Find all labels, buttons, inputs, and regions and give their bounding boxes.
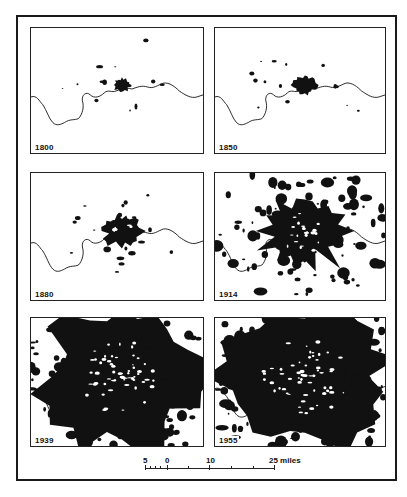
year-label: 1850 bbox=[218, 143, 239, 152]
settlement-patch bbox=[255, 206, 262, 212]
open-space bbox=[144, 363, 146, 365]
settlement-patch bbox=[240, 398, 245, 402]
open-space bbox=[111, 365, 115, 368]
open-space bbox=[288, 378, 292, 380]
scale-tick bbox=[253, 466, 254, 469]
map-panel-1955: 1955 bbox=[214, 317, 386, 447]
open-space bbox=[301, 374, 306, 376]
settlement-patch bbox=[307, 248, 311, 251]
settlement-patch bbox=[51, 411, 61, 416]
settlement-patch bbox=[117, 432, 123, 439]
scale-line bbox=[145, 468, 275, 469]
open-space bbox=[262, 370, 266, 373]
settlement-patch bbox=[168, 443, 175, 446]
settlement-patch bbox=[118, 238, 123, 244]
settlement-patch bbox=[337, 235, 344, 244]
open-space bbox=[329, 368, 334, 371]
settlement-patch bbox=[289, 268, 296, 271]
settlement-patch bbox=[352, 375, 366, 381]
scale-tick bbox=[167, 465, 168, 470]
settlement-patch bbox=[299, 253, 302, 255]
settlement-patch bbox=[277, 255, 290, 266]
settlement-patch bbox=[121, 204, 124, 208]
open-space bbox=[300, 246, 304, 247]
settlement-patch bbox=[249, 173, 255, 180]
settlement-patch bbox=[367, 428, 375, 433]
settlement-patch bbox=[247, 230, 258, 241]
settlement-patch bbox=[315, 239, 325, 243]
settlement-patch bbox=[327, 379, 333, 383]
urban-map bbox=[31, 318, 203, 446]
settlement-patch bbox=[292, 259, 301, 269]
settlement-patch bbox=[357, 415, 370, 422]
urban-core bbox=[114, 77, 131, 92]
open-space bbox=[133, 379, 136, 381]
settlement-patch bbox=[257, 106, 259, 108]
settlement-patch bbox=[365, 436, 373, 446]
settlement-patch bbox=[238, 426, 243, 432]
open-space bbox=[294, 241, 298, 242]
open-space bbox=[127, 224, 132, 226]
urban-core bbox=[31, 318, 203, 446]
open-space bbox=[329, 371, 333, 372]
open-space bbox=[302, 227, 305, 230]
settlement-patch bbox=[62, 330, 67, 334]
map-panel-1880: 1880 bbox=[30, 172, 204, 301]
settlement-patch bbox=[54, 355, 60, 361]
scale-bar: 5 0 10 25 miles bbox=[144, 456, 294, 478]
settlement-patch bbox=[351, 323, 357, 327]
settlement-patch bbox=[36, 340, 39, 343]
settlement-patch bbox=[278, 271, 283, 276]
settlement-patch bbox=[331, 429, 339, 438]
settlement-patch bbox=[113, 391, 118, 394]
settlement-patch bbox=[346, 105, 348, 106]
settlement-patch bbox=[96, 65, 103, 68]
settlement-patch bbox=[73, 221, 77, 224]
open-space bbox=[300, 370, 305, 373]
settlement-patch bbox=[138, 385, 146, 390]
year-label: 1914 bbox=[218, 290, 239, 299]
settlement-patch bbox=[335, 386, 341, 389]
open-space bbox=[304, 364, 307, 366]
settlement-patch bbox=[73, 342, 81, 345]
settlement-patch bbox=[244, 375, 249, 381]
settlement-patch bbox=[110, 327, 123, 335]
settlement-patch bbox=[325, 423, 330, 427]
settlement-patch bbox=[371, 354, 376, 359]
settlement-patch bbox=[344, 280, 350, 285]
settlement-patch bbox=[340, 414, 345, 417]
scale-label: 25 miles bbox=[269, 456, 301, 465]
open-space bbox=[103, 407, 108, 410]
open-space bbox=[89, 372, 92, 374]
settlement-patch bbox=[109, 440, 118, 446]
scale-tick bbox=[145, 465, 146, 470]
settlement-patch bbox=[249, 72, 254, 76]
scale-tick bbox=[209, 465, 210, 470]
open-space bbox=[127, 372, 129, 374]
settlement-patch bbox=[293, 359, 299, 362]
open-space bbox=[263, 378, 266, 381]
settlement-patch bbox=[260, 61, 262, 62]
settlement-patch bbox=[188, 357, 202, 363]
settlement-patch bbox=[321, 178, 334, 188]
settlement-patch bbox=[190, 335, 197, 340]
settlement-patch bbox=[94, 99, 98, 102]
open-space bbox=[298, 407, 301, 408]
settlement-patch bbox=[351, 212, 357, 215]
settlement-patch bbox=[267, 384, 273, 387]
settlement-patch bbox=[148, 407, 154, 415]
settlement-patch bbox=[252, 383, 257, 387]
settlement-patch bbox=[254, 287, 268, 295]
settlement-patch bbox=[110, 410, 115, 418]
settlement-patch bbox=[70, 252, 73, 254]
urban-core bbox=[101, 214, 146, 248]
settlement-patch bbox=[174, 432, 178, 435]
settlement-patch bbox=[285, 184, 291, 191]
settlement-patch bbox=[317, 203, 320, 205]
open-space bbox=[300, 378, 302, 381]
open-space bbox=[99, 361, 102, 364]
settlement-patch bbox=[100, 80, 106, 83]
settlement-patch bbox=[263, 417, 272, 422]
settlement-patch bbox=[148, 227, 152, 232]
scale-label: 0 bbox=[165, 456, 169, 465]
